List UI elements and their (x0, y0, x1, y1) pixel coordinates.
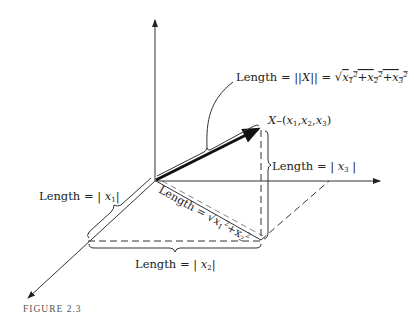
projection-lines (88, 130, 329, 241)
diagonal-length-label: Length = √x12+x22 (156, 183, 252, 245)
norm-label: Length = ||X|| = √x12+x22+x32 (236, 70, 408, 85)
x3-length-label: Length = | x3 | (272, 159, 356, 174)
vector-label: X–(x1,x2,x3) (267, 113, 331, 128)
vector-length-diagram: Length = ||X|| = √x12+x22+x32 X–(x1,x2,x… (0, 0, 414, 330)
x1-length-label: Length = | x1| (39, 189, 120, 204)
x2-length-label: Length = | x2| (135, 257, 216, 272)
figure-caption: FIGURE 2.3 (23, 304, 82, 314)
